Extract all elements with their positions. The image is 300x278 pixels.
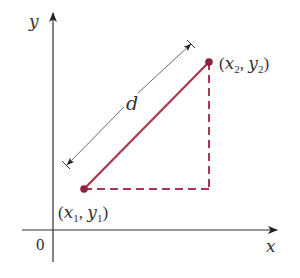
y-axis-label: y <box>28 11 39 31</box>
distance-label: d <box>126 92 138 114</box>
point-1 <box>80 185 88 193</box>
distance-diagram: d y x 0 (x1, y1) (x2, y2) <box>0 0 300 278</box>
point-2 <box>205 58 213 66</box>
origin-label: 0 <box>36 235 45 254</box>
distance-segment <box>84 62 209 189</box>
x-axis-label: x <box>266 236 276 256</box>
point-1-label: (x1, y1) <box>58 202 108 224</box>
point-2-label: (x2, y2) <box>219 53 269 75</box>
